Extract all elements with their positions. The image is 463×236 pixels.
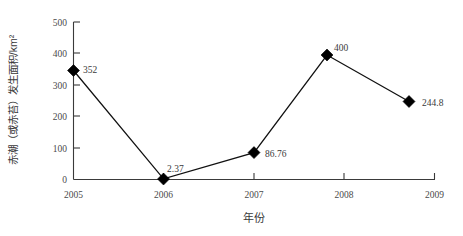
data-label-2005: 352 <box>83 65 98 75</box>
line-chart: 500 400 300 200 100 0 2005 2006 2007 200… <box>0 0 463 236</box>
x-tick-label-2005: 2005 <box>64 190 83 200</box>
x-tick-label-2008: 2008 <box>335 190 354 200</box>
x-axis-title: 年份 <box>243 211 265 224</box>
y-tick-label-200: 200 <box>53 112 68 122</box>
y-tick-label-100: 100 <box>53 144 68 154</box>
data-point-2006 <box>158 173 170 185</box>
y-tick-label-400: 400 <box>53 49 68 59</box>
y-tick-label-500: 500 <box>53 18 68 28</box>
data-series <box>68 49 416 185</box>
y-tick-labels: 500 400 300 200 100 0 <box>53 18 68 186</box>
data-label-2007: 86.76 <box>265 149 287 159</box>
x-tick-labels: 2005 2006 2007 2008 2009 <box>64 190 444 200</box>
x-tick-label-2007: 2007 <box>245 190 264 200</box>
data-point-2008 <box>321 49 333 61</box>
y-axis-title: 赤潮（或赤苔）发生面积/km² <box>7 34 19 165</box>
data-label-2008: 400 <box>334 43 349 53</box>
data-label-2009: 244.8 <box>422 98 444 108</box>
y-tick-label-0: 0 <box>62 175 67 185</box>
data-point-2009 <box>403 96 415 108</box>
series-polyline <box>74 55 410 179</box>
data-point-2007 <box>248 147 260 159</box>
y-tick-label-300: 300 <box>53 81 68 91</box>
data-point-labels: 352 2.37 86.76 400 244.8 <box>83 43 444 174</box>
data-label-2006: 2.37 <box>167 164 184 174</box>
x-tick-label-2006: 2006 <box>154 190 173 200</box>
x-tick-label-2009: 2009 <box>425 190 444 200</box>
